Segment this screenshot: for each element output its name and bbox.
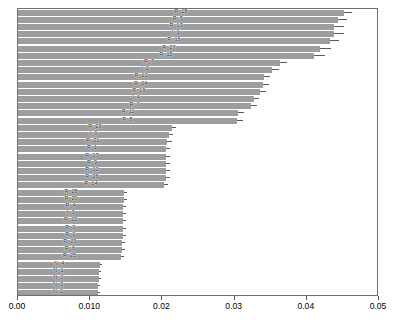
bar-label: I_3: [67, 209, 75, 215]
bar-row: R_27: [18, 46, 378, 52]
bar-row: R_11: [18, 110, 378, 116]
bar-label: R_4: [66, 202, 76, 208]
bar-label: R_5: [173, 15, 183, 21]
bar-label: R_9: [87, 159, 97, 165]
bar-label: R_1: [87, 144, 97, 150]
bar-label: R_10: [85, 166, 98, 172]
variable-importance-chart: R_18R_5R_13I_1R_16R_27R_15R_7I_2R_12R_24…: [0, 0, 396, 328]
x-axis-tick-label: 0.010: [78, 301, 100, 311]
bar-row: R_26: [18, 175, 378, 181]
bar-label: R_7: [144, 58, 154, 64]
plot-area: R_18R_5R_13I_1R_16R_27R_15R_7I_2R_12R_24…: [17, 8, 378, 296]
x-axis-tick-mark: [89, 296, 90, 300]
bar-label: R_17: [85, 152, 98, 158]
bar-row: R_19: [18, 89, 378, 95]
bar-label: N_4: [54, 260, 64, 266]
bar-label: I_2: [141, 65, 149, 71]
bar-label: R_25: [63, 252, 76, 258]
bar-row: R_23: [18, 125, 378, 131]
bar-row: R_17: [18, 154, 378, 160]
bar-row: R_1: [18, 146, 378, 152]
bar-label: R_19: [132, 87, 145, 93]
bar-row: R_15: [18, 53, 378, 59]
bar-label: I_0: [90, 130, 98, 136]
bar-label: R_16: [167, 36, 180, 42]
bar-row: R_13: [18, 24, 378, 30]
bar-label: R_18: [174, 8, 187, 14]
bar-label: I_1: [172, 29, 180, 35]
bar-row: R_24: [18, 82, 378, 88]
x-axis-tick-mark: [161, 296, 162, 300]
bar-label: R_2: [65, 231, 75, 237]
x-axis-tick-mark: [306, 296, 307, 300]
x-axis-tick-label: 0.04: [297, 301, 314, 311]
bar-label: R_29: [63, 238, 76, 244]
bar-row: R_25: [18, 254, 378, 260]
bar-row: R_7: [18, 60, 378, 66]
bar-label: R_6: [65, 245, 75, 251]
x-axis-tick-label: 0.02: [153, 301, 170, 311]
bar-row: R_12: [18, 74, 378, 80]
bar-label: R_0: [129, 101, 139, 107]
bar-label: R_28: [64, 188, 77, 194]
bar-label: R_21: [86, 137, 99, 143]
bar-label: R_15: [159, 51, 172, 57]
bar-row: R_9: [18, 161, 378, 167]
bar-row: I_2: [18, 67, 378, 73]
bar-row: N_0: [18, 276, 378, 282]
bar-label: R_13: [169, 22, 182, 28]
x-axis-tick-mark: [17, 296, 18, 300]
bar-label: R_27: [162, 44, 175, 50]
bar-label: R_11: [122, 108, 135, 114]
bar-label: R_23: [88, 123, 101, 129]
bar-row: N_4: [18, 262, 378, 268]
bar-row: R_10: [18, 168, 378, 174]
bar-row: R_18: [18, 10, 378, 16]
bar-label: R_22: [64, 216, 77, 222]
bar-row: R_21: [18, 139, 378, 145]
x-axis-tick-mark: [234, 296, 235, 300]
bar-label: R_14: [84, 180, 97, 186]
bar-row: R_0: [18, 103, 378, 109]
bar-row: I_4: [18, 96, 378, 102]
bar-row: N_1: [18, 269, 378, 275]
x-axis-tick-label: 0.05: [370, 301, 387, 311]
x-axis-tick-mark: [378, 296, 379, 300]
bar-row: R_5: [18, 17, 378, 23]
bar-row: I_1: [18, 31, 378, 37]
bar-label: N_0: [53, 274, 63, 280]
bar-label: N_3: [53, 281, 63, 287]
bar-label: I_4: [132, 94, 140, 100]
bar-row: R_16: [18, 38, 378, 44]
x-axis: 0.000.0100.020.030.040.05: [17, 296, 378, 328]
bar-label: N_2: [53, 288, 63, 294]
bar-row: N_3: [18, 283, 378, 289]
bar-label: R_24: [134, 80, 147, 86]
bar-label: R_12: [134, 72, 147, 78]
x-axis-tick-label: 0.03: [225, 301, 242, 311]
bar-label: N_1: [53, 267, 63, 273]
bar-label: R_3: [65, 224, 75, 230]
bar-label: R_8: [122, 116, 132, 122]
x-axis-tick-label: 0.00: [9, 301, 26, 311]
bar-label: R_26: [85, 173, 98, 179]
bar-row: R_8: [18, 118, 378, 124]
bar-row: I_0: [18, 132, 378, 138]
bar-label: R_20: [64, 195, 77, 201]
